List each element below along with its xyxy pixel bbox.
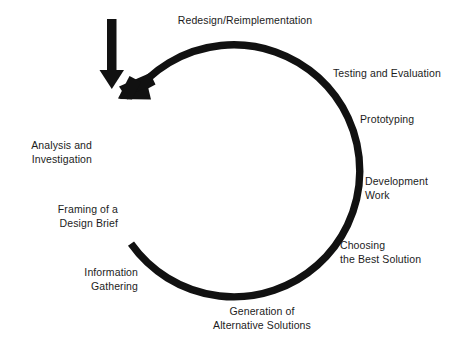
stage-label-development: Development Work	[365, 175, 460, 202]
stage-label-information: Information Gathering	[28, 266, 138, 293]
diagram-canvas: Redesign/Reimplementation Testing and Ev…	[0, 0, 462, 347]
stage-label-framing: Framing of a Design Brief	[0, 203, 118, 230]
stage-label-testing: Testing and Evaluation	[333, 67, 461, 81]
cycle-ring-path	[131, 45, 360, 297]
stage-label-generation: Generation of Alternative Solutions	[182, 305, 342, 332]
stage-label-analysis: Analysis and Investigation	[0, 139, 92, 166]
cycle-arrowhead	[118, 73, 156, 100]
cycle-break-hatching	[99, 94, 120, 121]
stage-label-choosing: Choosing the Best Solution	[340, 239, 460, 266]
stage-label-prototyping: Prototyping	[360, 113, 460, 127]
downward-entry-arrow	[100, 19, 125, 89]
cycle-ring-group	[131, 45, 360, 297]
stage-label-redesign: Redesign/Reimplementation	[160, 14, 330, 28]
design-cycle-graphic	[0, 0, 462, 347]
